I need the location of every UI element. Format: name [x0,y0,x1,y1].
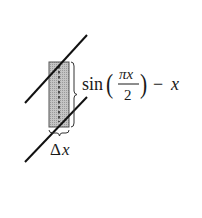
right-paren: ) [140,69,147,100]
variable-x: x [170,74,179,94]
width-label: Δ x [50,140,70,159]
left-paren: ( [106,69,113,100]
area-strip-diagram: sin ( πx 2 ) − x Δ x [0,0,202,218]
height-brace [71,62,77,127]
height-label: sin ( πx 2 ) − x [82,66,179,103]
fraction-denominator: 2 [124,87,132,103]
fraction-numerator: πx [119,66,134,82]
minus-sign: − [153,74,163,94]
delta-variable-x: x [61,140,70,159]
sin-function: sin [82,74,103,94]
delta-symbol: Δ [50,140,61,159]
